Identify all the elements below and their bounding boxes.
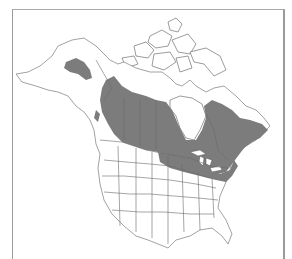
arctic-archipelago — [122, 18, 226, 76]
